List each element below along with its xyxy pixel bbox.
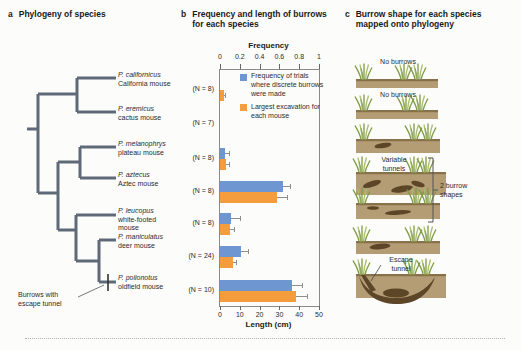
error-cap-frequency-6 [302, 283, 303, 288]
bar-length_cm-5 [220, 257, 233, 268]
bar-frequency-5 [220, 246, 241, 257]
n-label-eremicus: (N = 7) [166, 118, 214, 127]
burrow-row-californicus [355, 64, 438, 89]
panel-c-title: c Burrow shape for each species mapped o… [345, 9, 494, 29]
bottom-axis-tick [240, 306, 241, 310]
top-axis-tick-label: 0.4 [255, 53, 265, 60]
top-axis-title: Frequency [219, 41, 318, 50]
species-latin: P. aztecus [118, 171, 174, 180]
error-cap-length_cm-5 [236, 260, 237, 265]
panel-a-title-text: Phylogeny of species [19, 9, 139, 19]
species-common: California mouse [118, 80, 171, 87]
bottom-axis-tick-label: 50 [315, 311, 323, 318]
bar-frequency-4 [220, 213, 231, 224]
panel-c-letter: c [345, 9, 350, 29]
error-bar-frequency-6 [292, 285, 302, 286]
top-axis-tick [240, 64, 241, 69]
top-axis-tick-label: 1 [317, 53, 321, 60]
bottom-axis-tick [220, 306, 221, 310]
top-axis-tick [220, 64, 221, 69]
n-label-polionotus: (N = 10) [166, 285, 214, 294]
species-latin: P. polionotus [118, 274, 174, 283]
row-label-no-burrows-2: No burrows [378, 91, 418, 100]
species-label-maniculatus: P. maniculatusdeer mouse [118, 233, 174, 250]
bar-length_cm-3 [220, 192, 277, 203]
bar-length_cm-4 [220, 224, 230, 235]
error-bar-frequency-3 [283, 186, 290, 187]
annotation-pointer-line [78, 285, 104, 297]
top-axis-tick [299, 64, 300, 69]
tree-branches [27, 78, 116, 282]
n-label-maniculatus: (N = 24) [166, 251, 214, 260]
error-cap-frequency-5 [248, 249, 249, 254]
legend-swatch-1 [240, 104, 247, 111]
panel-c-title-text: Burrow shape for each species mapped ont… [356, 9, 494, 29]
error-cap-length_cm-2 [229, 162, 230, 167]
error-bar-length_cm-6 [296, 296, 307, 297]
n-label-californicus: (N = 8) [166, 84, 214, 93]
species-latin: P. eremicus [118, 105, 174, 114]
panel-b-title: b Frequency and length of burrows for ea… [181, 9, 334, 29]
bar-length_cm-6 [220, 291, 296, 302]
top-axis-tick [279, 64, 280, 69]
bar-frequency-6 [220, 280, 292, 291]
bottom-axis-tick-label: 0 [218, 311, 222, 318]
error-cap-frequency-3 [290, 184, 291, 189]
panel-a-letter: a [8, 9, 13, 19]
n-label-leucopus: (N = 8) [166, 218, 214, 227]
species-common: white-footed mouse [118, 216, 156, 232]
species-latin: P. maniculatus [118, 233, 174, 242]
panel-a-title: a Phylogeny of species [8, 9, 139, 19]
row-label-variable-tunnels: Variable tunnels [372, 156, 416, 173]
top-axis-tick [319, 64, 320, 69]
bottom-axis-tick-label: 30 [275, 311, 283, 318]
top-axis-tick-label: 0.2 [235, 53, 245, 60]
legend-label-0: Frequency of trials where discrete burro… [251, 71, 327, 98]
species-latin: P. leucopus [118, 207, 174, 216]
n-label-melanophrys: (N = 8) [166, 153, 214, 162]
page-divider [25, 338, 505, 339]
escape-tunnel-annotation: Burrows with escape tunnel [18, 291, 68, 308]
bottom-axis-tick [260, 306, 261, 310]
error-cap-length_cm-0 [225, 93, 226, 98]
top-axis-tick-label: 0.8 [294, 53, 304, 60]
bottom-axis-tick [279, 306, 280, 310]
panel-b-title-text: Frequency and length of burrows for each… [192, 9, 334, 29]
bottom-axis-tick-label: 20 [256, 311, 264, 318]
bracket-label: 2 burrow shapes [440, 182, 490, 199]
bottom-axis-title: Length (cm) [214, 320, 323, 329]
top-axis-tick [260, 64, 261, 69]
bottom-axis-tick-label: 10 [236, 311, 244, 318]
bar-frequency-3 [220, 181, 283, 192]
error-cap-length_cm-3 [287, 195, 288, 200]
burrow-row-melanophrys [355, 124, 440, 154]
burrow-row-maniculatus [353, 226, 440, 255]
top-axis-tick-label: 0.6 [275, 53, 285, 60]
legend-swatch-0 [240, 74, 247, 81]
species-latin: P. melanophrys [118, 140, 174, 149]
error-bar-frequency-5 [241, 251, 248, 252]
species-common: cactus mouse [118, 114, 161, 121]
bottom-axis-tick [299, 306, 300, 310]
figure-canvas: a Phylogeny of species b Frequency and l… [0, 0, 521, 350]
error-bar-frequency-4 [231, 218, 240, 219]
error-cap-frequency-2 [229, 151, 230, 156]
top-axis-tick-label: 0 [218, 53, 222, 60]
error-cap-length_cm-6 [307, 294, 308, 299]
error-cap-length_cm-4 [234, 227, 235, 232]
species-common: plateau mouse [118, 149, 164, 156]
panel-b-letter: b [181, 9, 186, 29]
row-label-no-burrows-1: No burrows [378, 58, 418, 67]
species-common: Aztec mouse [118, 180, 158, 187]
bottom-axis-tick-label: 40 [295, 311, 303, 318]
n-label-aztecus: (N = 8) [166, 186, 214, 195]
species-latin: P. californicus [118, 71, 174, 80]
error-bar-length_cm-3 [277, 197, 287, 198]
error-cap-frequency-4 [240, 216, 241, 221]
species-common: deer mouse [118, 242, 155, 249]
row-label-escape-tunnel: Escape tunnel [382, 256, 420, 273]
bottom-axis-tick [319, 306, 320, 310]
legend-label-1: Largest excavation for each mouse [251, 102, 327, 120]
species-common: oldfield mouse [118, 283, 163, 290]
